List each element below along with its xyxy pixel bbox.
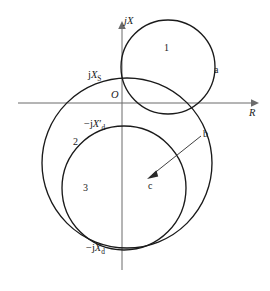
radius-vector-arrowhead [147,170,158,179]
tick-label-minus-jxd-prime-subscript: d [102,123,106,132]
locus-circle-1 [121,20,215,114]
resistance-axis-label: R [249,108,255,119]
circle-2-label: 2 [73,137,78,147]
tick-label-minus-jxd: −jXd [86,243,105,256]
point-c-label: c [148,181,152,191]
circle-3-label: 3 [83,183,88,193]
point-b-label: b [203,129,208,139]
point-a-label: a [214,65,218,75]
resistance-axis-arrowhead [251,99,259,107]
impedance-locus-figure: jX R O jXS −jX′d −jXd 1 2 3 a b c [0,0,270,291]
tick-label-jxs: jXS [88,70,101,83]
radius-vector-line [152,136,201,175]
circle-1-label: 1 [164,43,169,53]
tick-label-minus-jxd-prime: −jX′d [84,119,105,132]
origin-label: O [111,90,119,101]
radius-vector-bc [147,136,201,179]
tick-label-jxs-subscript: S [97,74,101,83]
tick-label-minus-jxd-subscript: d [101,247,105,256]
reactance-axis-label: jX [124,16,133,27]
figure-canvas [0,0,270,291]
locus-circle-3 [62,126,186,250]
